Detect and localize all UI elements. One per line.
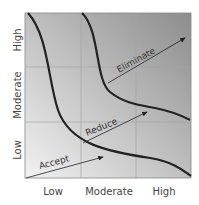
y-tick-moderate: Moderate	[12, 71, 23, 119]
y-tick-high: High	[12, 29, 23, 52]
x-tick-low: Low	[43, 186, 63, 197]
x-tick-high: High	[153, 186, 176, 197]
y-tick-low: Low	[12, 140, 23, 160]
risk-diagram: Accept Reduce Eliminate Low Moderate Hig…	[0, 0, 199, 205]
plot-area	[25, 13, 191, 178]
x-tick-moderate: Moderate	[85, 186, 133, 197]
